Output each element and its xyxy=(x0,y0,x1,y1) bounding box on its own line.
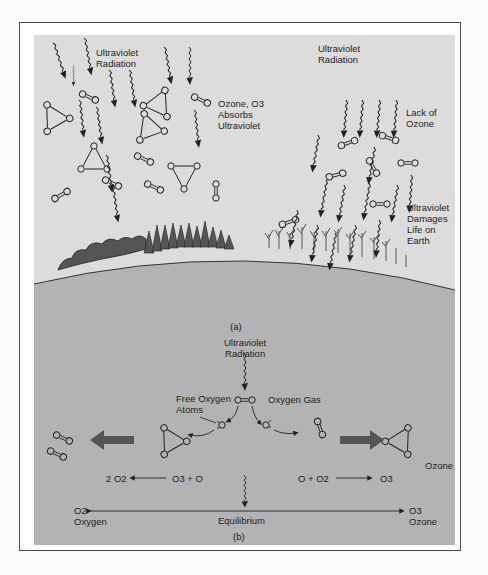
lack-of-ozone-label: Lack of Ozone xyxy=(406,107,437,129)
reaction-right-reactants: O + O2 xyxy=(298,473,329,484)
equilibrium-right-name: Ozone xyxy=(409,516,437,527)
free-oxygen-atoms-label: Free Oxygen Atoms xyxy=(176,393,231,415)
oxygen-gas-label: Oxygen Gas xyxy=(268,394,321,405)
reaction-left-products: 2 O2 xyxy=(106,473,127,484)
uv-damages-label: Ultraviolet Damages Life on Earth xyxy=(407,202,449,246)
equilibrium-left-formula: O2 xyxy=(74,505,87,516)
caption-b-label: (b) xyxy=(233,531,245,542)
uv-label-center: Ultraviolet Radiation xyxy=(224,337,266,359)
reaction-left-reactants: O3 + O xyxy=(172,473,203,484)
uv-label-left: Ultraviolet Radiation xyxy=(96,47,138,69)
ozone-label-right: Ozone xyxy=(425,460,453,471)
caption-a-label: (a) xyxy=(230,321,242,332)
equilibrium-label: Equilibrium xyxy=(218,515,265,526)
uv-label-right: Ultraviolet Radiation xyxy=(318,43,360,65)
equilibrium-left-name: Oxygen xyxy=(74,516,107,527)
equilibrium-right-formula: O3 xyxy=(409,505,422,516)
figure-panel: Ultraviolet Radiation Ozone, O3 Absorbs … xyxy=(34,35,455,545)
ozone-absorbs-label: Ozone, O3 Absorbs Ultraviolet xyxy=(218,98,264,131)
reaction-right-products: O3 xyxy=(380,473,393,484)
